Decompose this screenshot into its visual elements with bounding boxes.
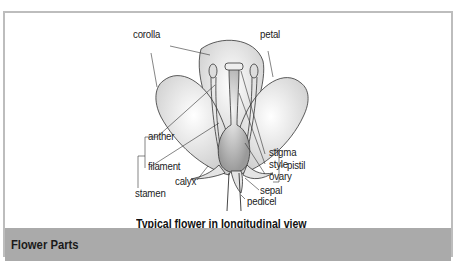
label-sepal: sepal [260,185,282,196]
label-filament: filament [148,161,180,172]
label-stamen: stamen [135,188,166,199]
label-style: style [269,159,288,170]
flower-illustration-icon [5,13,451,213]
label-pistil: pistil [287,160,305,171]
flower-diagram: corolla petal anther filament stamen cal… [5,13,451,216]
footer-title: Flower Parts [11,238,79,252]
label-corolla: corolla [133,29,160,40]
label-anther: anther [148,131,174,142]
figure-frame: corolla petal anther filament stamen cal… [3,11,453,257]
label-ovary: ovary [269,171,292,182]
label-calyx: calyx [175,176,196,187]
footer-bar: Flower Parts [5,228,451,261]
label-petal: petal [260,29,280,40]
label-stigma: stigma [269,147,296,158]
label-pedicel: pedicel [247,196,276,207]
